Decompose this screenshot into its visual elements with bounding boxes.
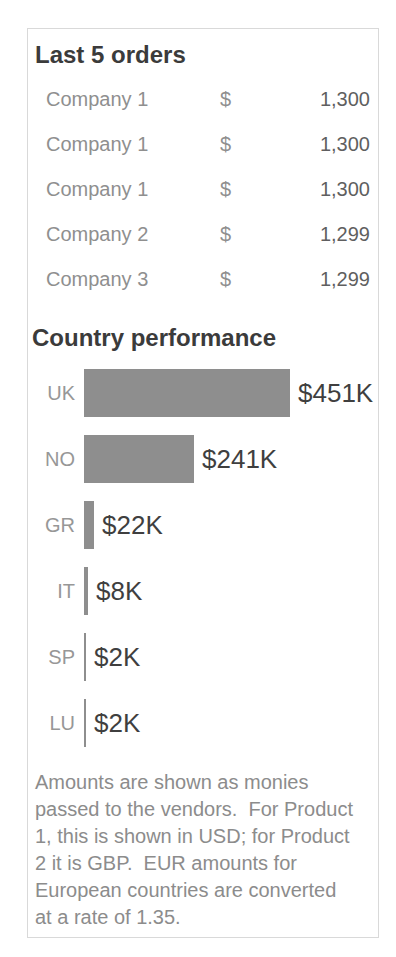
country-label: GR xyxy=(28,514,75,537)
order-row: Company 3 $ 1,299 xyxy=(28,257,378,302)
bar-lu xyxy=(84,699,86,747)
footnote-line: passed to the vendors. For Product xyxy=(35,796,372,823)
chart-row: IT $8K xyxy=(28,558,378,624)
order-money: $ 1,300 xyxy=(220,178,378,201)
bar-value-label: $2K xyxy=(94,642,140,673)
bar-value-label: $22K xyxy=(102,510,163,541)
order-amount: 1,300 xyxy=(320,133,370,156)
bar-uk xyxy=(84,369,290,417)
footnote: Amounts are shown as monies passed to th… xyxy=(35,769,372,931)
bar-it xyxy=(84,567,88,615)
orders-section: Last 5 orders Company 1 $ 1,300 Company … xyxy=(28,41,378,302)
order-company: Company 1 xyxy=(28,88,220,111)
bar-value-label: $2K xyxy=(94,708,140,739)
performance-section: Country performance UK $451K NO $241K GR… xyxy=(28,324,378,756)
currency-symbol: $ xyxy=(220,268,231,291)
country-label: LU xyxy=(28,712,75,735)
order-company: Company 1 xyxy=(28,133,220,156)
orders-list: Company 1 $ 1,300 Company 1 $ 1,300 Comp… xyxy=(28,77,378,302)
bar-no xyxy=(84,435,194,483)
order-row: Company 1 $ 1,300 xyxy=(28,122,378,167)
order-amount: 1,300 xyxy=(320,178,370,201)
country-label: IT xyxy=(28,580,75,603)
footnote-line: 2 it is GBP. EUR amounts for xyxy=(35,850,372,877)
bar-value-label: $8K xyxy=(96,576,142,607)
order-amount: 1,299 xyxy=(320,223,370,246)
order-money: $ 1,299 xyxy=(220,223,378,246)
currency-symbol: $ xyxy=(220,88,231,111)
country-label: NO xyxy=(28,448,75,471)
footnote-line: 1, this is shown in USD; for Product xyxy=(35,823,372,850)
order-row: Company 2 $ 1,299 xyxy=(28,212,378,257)
footnote-line: at a rate of 1.35. xyxy=(35,904,372,931)
bar-value-label: $241K xyxy=(202,444,277,475)
orders-title: Last 5 orders xyxy=(35,41,372,69)
report-panel: Last 5 orders Company 1 $ 1,300 Company … xyxy=(27,28,379,938)
footnote-line: Amounts are shown as monies xyxy=(35,769,372,796)
order-company: Company 2 xyxy=(28,223,220,246)
country-label: UK xyxy=(28,382,75,405)
order-row: Company 1 $ 1,300 xyxy=(28,167,378,212)
bar-sp xyxy=(84,633,86,681)
chart-row: GR $22K xyxy=(28,492,378,558)
country-bar-chart: UK $451K NO $241K GR $22K IT $8K SP xyxy=(28,360,378,756)
footnote-line: European countries are converted xyxy=(35,877,372,904)
order-amount: 1,300 xyxy=(320,88,370,111)
order-company: Company 1 xyxy=(28,178,220,201)
chart-row: UK $451K xyxy=(28,360,378,426)
order-amount: 1,299 xyxy=(320,268,370,291)
currency-symbol: $ xyxy=(220,178,231,201)
order-company: Company 3 xyxy=(28,268,220,291)
chart-row: NO $241K xyxy=(28,426,378,492)
order-money: $ 1,300 xyxy=(220,133,378,156)
chart-row: SP $2K xyxy=(28,624,378,690)
currency-symbol: $ xyxy=(220,223,231,246)
performance-title: Country performance xyxy=(32,324,372,352)
order-row: Company 1 $ 1,300 xyxy=(28,77,378,122)
order-money: $ 1,299 xyxy=(220,268,378,291)
chart-row: LU $2K xyxy=(28,690,378,756)
bar-value-label: $451K xyxy=(298,378,373,409)
currency-symbol: $ xyxy=(220,133,231,156)
bar-gr xyxy=(84,501,94,549)
country-label: SP xyxy=(28,646,75,669)
order-money: $ 1,300 xyxy=(220,88,378,111)
